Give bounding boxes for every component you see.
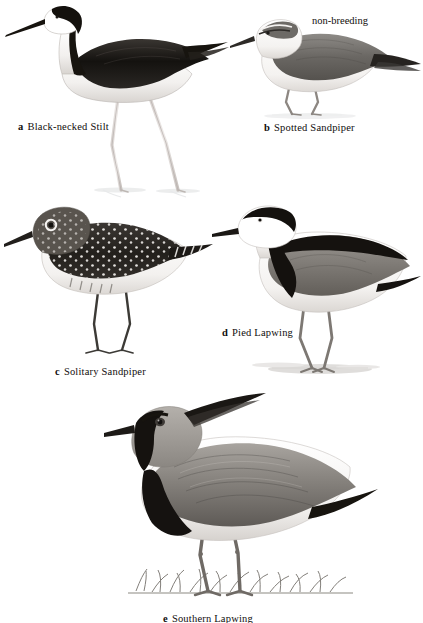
figure-pied-lapwing bbox=[208, 202, 423, 382]
sandy-ground bbox=[252, 363, 380, 374]
caption-letter-d: d bbox=[222, 327, 228, 338]
caption-solitary-sandpiper: cSolitary Sandpiper bbox=[55, 366, 146, 377]
sosa-bill bbox=[4, 231, 33, 247]
caption-letter-b: b bbox=[264, 122, 270, 133]
caption-name-d: Pied Lapwing bbox=[232, 327, 293, 338]
caption-pied-lapwing: dPied Lapwing bbox=[222, 327, 293, 338]
illustration-plate: aBlack-necked Stilt bbox=[0, 0, 423, 623]
figure-spotted-sandpiper bbox=[228, 14, 423, 124]
stilt-bill bbox=[5, 19, 45, 37]
ground-shadow bbox=[264, 113, 356, 119]
figure-solitary-sandpiper bbox=[2, 200, 214, 365]
plap-legs bbox=[300, 306, 334, 372]
caption-name-a: Black-necked Stilt bbox=[27, 121, 108, 132]
caption-southern-lapwing: eSouthern Lapwing bbox=[163, 613, 253, 623]
caption-letter-e: e bbox=[163, 613, 168, 623]
slap-bill bbox=[104, 425, 135, 437]
annotation-non-breeding: non-breeding bbox=[312, 15, 368, 26]
caption-letter-a: a bbox=[18, 121, 23, 132]
sosa-legs bbox=[86, 292, 133, 353]
stilt-legs bbox=[112, 97, 185, 192]
plap-bill bbox=[212, 228, 239, 237]
caption-spotted-sandpiper: bSpotted Sandpiper bbox=[264, 122, 355, 133]
caption-name-e: Southern Lapwing bbox=[172, 613, 253, 623]
spsa-bill bbox=[230, 36, 255, 48]
caption-letter-c: c bbox=[55, 366, 60, 377]
caption-name-b: Spotted Sandpiper bbox=[274, 122, 355, 133]
figure-southern-lapwing bbox=[98, 395, 383, 600]
caption-black-necked-stilt: aBlack-necked Stilt bbox=[18, 121, 109, 132]
figure-black-necked-stilt bbox=[0, 0, 230, 200]
caption-name-c: Solitary Sandpiper bbox=[64, 366, 146, 377]
